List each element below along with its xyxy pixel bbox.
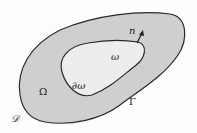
inner-boundary-label: ∂ω bbox=[72, 81, 85, 91]
container-label: 𝒟 bbox=[11, 114, 19, 124]
outer-boundary-label: Γ bbox=[129, 97, 136, 107]
diagram-canvas: n ω ∂ω Ω Γ 𝒟 bbox=[0, 0, 197, 133]
domain-figure bbox=[0, 0, 197, 133]
normal-label: n bbox=[129, 26, 135, 36]
outer-region-label: Ω bbox=[39, 87, 47, 97]
inner-region-label: ω bbox=[111, 52, 119, 62]
